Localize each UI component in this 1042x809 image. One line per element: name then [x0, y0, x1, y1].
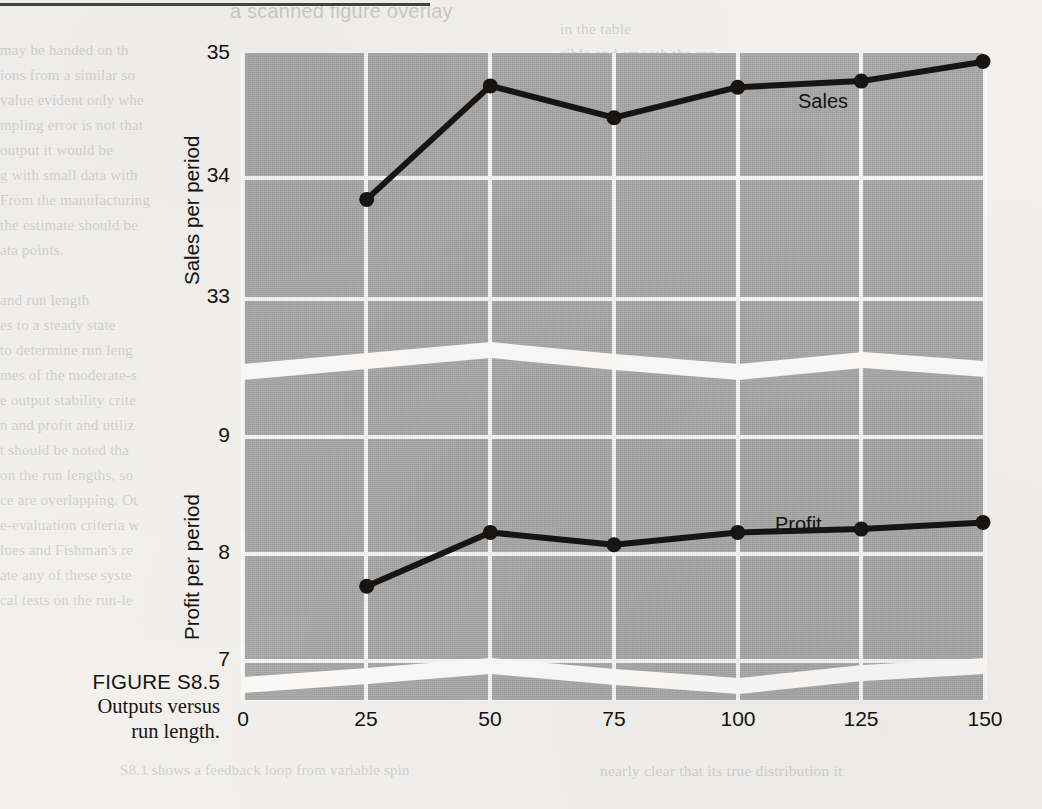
- xtick-75: 75: [584, 707, 644, 731]
- profit-point: [607, 537, 622, 552]
- ytick-profit-7: 7: [188, 647, 230, 671]
- figure-caption-number: FIGURE S8.5: [6, 669, 220, 694]
- xtick-150: 150: [955, 707, 1015, 731]
- figure-caption-line2: run length.: [6, 719, 220, 744]
- xtick-0: 0: [213, 707, 273, 731]
- figure-caption-line1: Outputs versus: [6, 694, 220, 719]
- ytick-sales-33: 33: [188, 284, 230, 308]
- xtick-125: 125: [831, 707, 891, 731]
- profit-point: [483, 525, 498, 540]
- xtick-100: 100: [708, 707, 768, 731]
- ytick-sales-35: 35: [188, 40, 230, 64]
- profit-point: [854, 522, 869, 537]
- series-label-profit: Profit: [775, 513, 822, 536]
- yaxis-title-profit: Profit per period: [180, 494, 204, 640]
- xtick-25: 25: [336, 707, 396, 731]
- series-label-sales: Sales: [798, 90, 848, 113]
- profit-line: [367, 522, 985, 586]
- profit-point: [359, 579, 374, 594]
- series-profit: [243, 53, 985, 700]
- figure-s8-5: Sales Profit 35 34 33 9 8 7 Sales per pe…: [0, 0, 1042, 809]
- xtick-50: 50: [460, 707, 520, 731]
- profit-point: [730, 525, 745, 540]
- figure-caption: FIGURE S8.5 Outputs versus run length.: [6, 669, 220, 744]
- yaxis-title-sales: Sales per period: [180, 136, 204, 285]
- ytick-profit-9: 9: [188, 423, 230, 447]
- profit-point: [976, 515, 991, 530]
- plot-area: [243, 53, 985, 700]
